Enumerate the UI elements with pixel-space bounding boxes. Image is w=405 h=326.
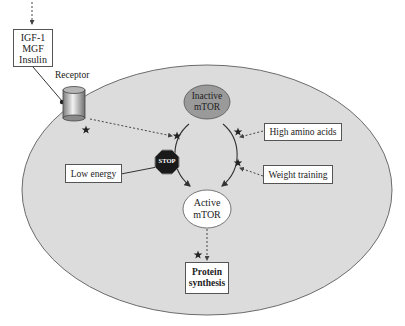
receptor-label: Receptor xyxy=(55,70,89,80)
mtor-diagram: IGF-1 MGF Insulin Receptor Inactive mTOR… xyxy=(0,0,405,326)
inactive-mtor-line1: Inactive xyxy=(192,91,223,102)
growth-factors-box: IGF-1 MGF Insulin xyxy=(13,29,53,67)
weight-training-label: Weight training xyxy=(268,169,327,181)
high-amino-acids-label: High amino acids xyxy=(269,126,336,138)
protein-synthesis-line2: synthesis xyxy=(189,278,225,289)
active-mtor-line1: Active xyxy=(194,197,221,209)
stop-sign-label: STOP xyxy=(157,157,177,164)
weight-training-box: Weight training xyxy=(263,165,333,184)
high-amino-acids-box: High amino acids xyxy=(264,123,342,141)
protein-synthesis-line1: Protein xyxy=(192,267,222,278)
low-energy-box: Low energy xyxy=(65,164,122,183)
low-energy-label: Low energy xyxy=(71,168,116,180)
growth-factor-mgf: MGF xyxy=(22,43,44,54)
growth-factor-insulin: Insulin xyxy=(19,54,47,65)
protein-synthesis-box: Protein synthesis xyxy=(185,262,229,294)
growth-factor-igf1: IGF-1 xyxy=(21,32,45,43)
inactive-mtor-label: Inactive mTOR xyxy=(184,90,230,114)
active-mtor-line2: mTOR xyxy=(193,209,221,221)
active-mtor-label: Active mTOR xyxy=(183,197,231,221)
inactive-mtor-line2: mTOR xyxy=(194,102,220,113)
receptor-cylinder-icon xyxy=(63,87,85,122)
